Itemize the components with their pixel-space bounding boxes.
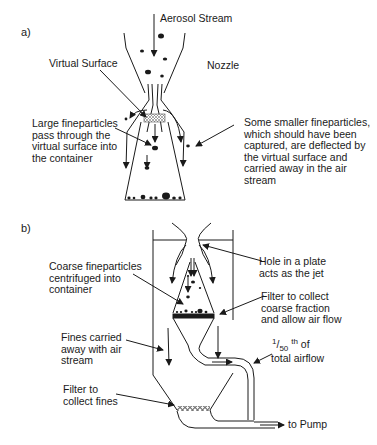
airflow-leader xyxy=(254,354,272,363)
tube-inner-bend xyxy=(235,365,248,420)
coarse-filter-leader xyxy=(220,296,264,314)
virtual-surface-label: Virtual Surface xyxy=(49,58,118,70)
housing-lower-right xyxy=(210,373,233,410)
coarse-fineparticles-label: Coarse fineparticles centrifuged into co… xyxy=(49,261,142,296)
right-flow-arrow xyxy=(183,132,184,166)
fraction-suffix: th xyxy=(291,337,298,346)
large-particles-leader xyxy=(115,128,151,145)
airflow-fraction-label: 1/50 th of xyxy=(272,339,310,351)
smaller-fineparticles-label: Some smaller fineparticles, which should… xyxy=(244,117,370,186)
panel-b-drawing xyxy=(116,223,284,428)
tube-upper-right xyxy=(199,318,235,358)
outlet-upper xyxy=(210,410,254,421)
fraction-of: of xyxy=(298,338,310,350)
jet-right-curve xyxy=(198,223,211,265)
filter-coarse-label: Filter to collect coarse fraction and al… xyxy=(261,291,342,326)
small-particles-leader xyxy=(196,125,234,146)
nozzle-label: Nozzle xyxy=(207,60,239,72)
jet-left-curve xyxy=(172,223,187,265)
large-fineparticles-label: Large fineparticles pass through the vir… xyxy=(32,118,118,164)
nozzle-right-wall xyxy=(164,33,185,93)
filter-fines-label: Filter to collect fines xyxy=(63,384,118,407)
coarse-filter xyxy=(173,314,214,318)
fines-carried-leader xyxy=(126,340,163,350)
virtual-surface-leader xyxy=(100,70,146,117)
tube-outer-bend xyxy=(235,358,254,420)
fines-filter xyxy=(177,406,210,411)
left-flow-arrow xyxy=(126,132,127,168)
hole-in-plate-label: Hole in a plate acts as the jet xyxy=(259,256,326,279)
fines-carried-label: Fines carried away with air stream xyxy=(61,332,122,367)
fines-filter-leader xyxy=(116,394,174,405)
total-airflow-label: total airflow xyxy=(271,353,324,365)
panel-a-label: a) xyxy=(21,27,31,39)
fraction-numerator: 1 xyxy=(272,337,276,346)
to-pump-label: to Pump xyxy=(288,419,327,431)
fines-flow-arrow xyxy=(168,328,169,365)
virtual-surface xyxy=(144,114,165,122)
panel-a-drawing xyxy=(100,14,234,200)
housing-left-wall xyxy=(153,230,177,410)
panel-b-label: b) xyxy=(21,223,31,235)
aerosol-stream-label: Aerosol Stream xyxy=(160,13,232,25)
nozzle-left-wall xyxy=(124,33,145,93)
panel-b-particles xyxy=(176,275,208,313)
